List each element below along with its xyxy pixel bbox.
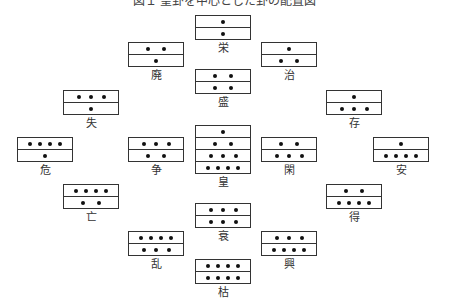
dot-row xyxy=(262,54,316,66)
diagram-node: 失 xyxy=(63,90,119,130)
dot-box xyxy=(261,137,317,162)
dot-icon xyxy=(221,220,225,224)
dot-icon xyxy=(206,276,210,280)
dot-icon xyxy=(367,201,371,205)
dot-row xyxy=(196,215,250,227)
dot-icon xyxy=(77,95,81,99)
dot-icon xyxy=(352,95,356,99)
dot-box xyxy=(128,231,184,256)
dot-icon xyxy=(229,86,233,90)
dot-icon xyxy=(216,264,220,268)
dot-icon xyxy=(404,154,408,158)
dot-icon xyxy=(209,208,213,212)
dot-icon xyxy=(292,248,296,252)
dot-row xyxy=(196,126,250,137)
dot-row xyxy=(129,232,183,243)
dot-icon xyxy=(167,142,171,146)
dot-icon xyxy=(139,236,143,240)
dot-icon xyxy=(357,201,361,205)
node-label: 乱 xyxy=(128,259,184,271)
dot-row xyxy=(196,137,250,149)
dot-icon xyxy=(384,154,388,158)
dot-icon xyxy=(154,142,158,146)
node-label: 廃 xyxy=(128,70,184,82)
node-label: 衰 xyxy=(195,231,251,243)
dot-icon xyxy=(287,236,291,240)
diagram-node: 皇 xyxy=(195,125,251,189)
dot-icon xyxy=(216,166,220,170)
dot-icon xyxy=(213,142,217,146)
dot-icon xyxy=(28,142,32,146)
dot-icon xyxy=(279,142,283,146)
dot-row xyxy=(64,196,118,208)
dot-icon xyxy=(360,189,364,193)
dot-row xyxy=(18,149,72,161)
dot-box xyxy=(373,137,429,162)
dot-icon xyxy=(352,107,356,111)
node-label: 閑 xyxy=(261,165,317,177)
dot-row xyxy=(129,243,183,255)
dot-row xyxy=(327,102,381,114)
dot-icon xyxy=(74,189,78,193)
dot-icon xyxy=(89,95,93,99)
dot-icon xyxy=(221,154,225,158)
dot-row xyxy=(327,91,381,102)
dot-icon xyxy=(302,248,306,252)
dot-row xyxy=(196,260,250,271)
dot-icon xyxy=(275,236,279,240)
diagram-node: 亡 xyxy=(63,184,119,224)
dot-icon xyxy=(282,248,286,252)
dot-icon xyxy=(226,166,230,170)
dot-icon xyxy=(142,142,146,146)
dot-icon xyxy=(43,154,47,158)
dot-row xyxy=(129,138,183,149)
dot-icon xyxy=(234,208,238,212)
dot-row xyxy=(196,204,250,215)
dot-icon xyxy=(234,220,238,224)
dot-icon xyxy=(287,47,291,51)
diagram-node: 治 xyxy=(261,42,317,82)
dot-row xyxy=(374,138,428,149)
dot-icon xyxy=(146,154,150,158)
dot-box xyxy=(261,231,317,256)
dot-box xyxy=(63,90,119,115)
dot-box xyxy=(195,203,251,228)
diagram-node: 乱 xyxy=(128,231,184,271)
dot-icon xyxy=(221,32,225,36)
dot-icon xyxy=(394,154,398,158)
dot-row xyxy=(196,70,250,81)
dot-box xyxy=(195,15,251,40)
dot-row xyxy=(327,185,381,196)
node-label: 亡 xyxy=(63,212,119,224)
dot-box xyxy=(128,42,184,67)
node-label: 安 xyxy=(373,165,429,177)
diagram-node: 廃 xyxy=(128,42,184,82)
dot-icon xyxy=(154,59,158,63)
dot-box xyxy=(195,69,251,94)
diagram-node: 盛 xyxy=(195,69,251,109)
dot-icon xyxy=(146,47,150,51)
dot-row xyxy=(262,149,316,161)
dot-icon xyxy=(209,220,213,224)
diagram-node: 安 xyxy=(373,137,429,177)
diagram-node: 争 xyxy=(128,137,184,177)
dot-icon xyxy=(295,142,299,146)
dot-icon xyxy=(236,166,240,170)
dot-icon xyxy=(234,154,238,158)
dot-icon xyxy=(154,248,158,252)
dot-icon xyxy=(295,59,299,63)
dot-icon xyxy=(97,201,101,205)
dot-icon xyxy=(279,59,283,63)
dot-icon xyxy=(236,264,240,268)
dot-icon xyxy=(300,154,304,158)
node-label: 得 xyxy=(326,212,382,224)
dot-icon xyxy=(206,264,210,268)
node-label: 争 xyxy=(128,165,184,177)
diagram-node: 危 xyxy=(17,137,73,177)
dot-icon xyxy=(221,20,225,24)
diagram-node: 興 xyxy=(261,231,317,271)
node-label: 盛 xyxy=(195,97,251,109)
dot-row xyxy=(196,16,250,27)
node-label: 治 xyxy=(261,70,317,82)
dot-icon xyxy=(209,154,213,158)
